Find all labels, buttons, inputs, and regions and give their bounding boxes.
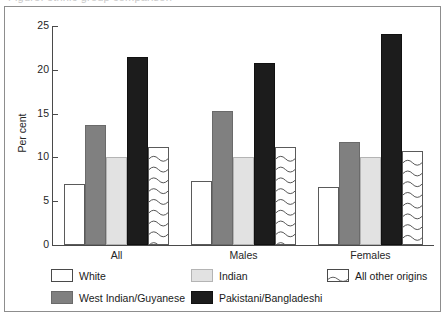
y-tick: 0 — [53, 245, 58, 246]
legend-item: White — [51, 269, 106, 282]
bar — [402, 151, 423, 245]
x-axis-group-label: Females — [307, 249, 434, 261]
bar — [85, 125, 106, 245]
y-tick-label: 0 — [43, 238, 49, 250]
bar — [212, 111, 233, 245]
bar — [275, 147, 296, 245]
y-axis-title: Per cent — [16, 98, 28, 168]
legend-label: West Indian/Guyanese — [79, 292, 185, 304]
legend-item: West Indian/Guyanese — [51, 291, 185, 304]
y-tick-label: 10 — [37, 150, 49, 162]
legend-label: Pakistani/Bangladeshi — [219, 292, 322, 304]
bar — [381, 34, 402, 245]
x-axis-group-label: All — [53, 249, 180, 261]
bar — [106, 157, 127, 245]
y-tick-label: 15 — [37, 107, 49, 119]
legend-swatch-white — [51, 269, 73, 282]
bar — [127, 57, 148, 245]
x-axis-line — [52, 245, 434, 246]
y-tick-label: 20 — [37, 63, 49, 75]
legend-item: All other origins — [327, 269, 427, 282]
legend-item: Indian — [191, 269, 248, 282]
y-tick: 15 — [53, 114, 58, 115]
y-tick-label: 25 — [37, 19, 49, 31]
bar — [191, 181, 212, 245]
y-axis-line — [52, 26, 53, 246]
legend-label: White — [79, 270, 106, 282]
legend-swatch-dgray — [51, 291, 73, 304]
y-tick-mark — [53, 70, 58, 71]
y-tick: 5 — [53, 201, 58, 202]
cut-off-heading-text: Figure: ethnic group comparison — [8, 0, 172, 3]
legend-label: Indian — [219, 270, 248, 282]
y-tick-mark — [53, 157, 58, 158]
bar — [148, 147, 169, 245]
plot-region: 0510152025 Per cent AllMalesFemales — [5, 7, 442, 261]
figure-frame: 0510152025 Per cent AllMalesFemales Whit… — [4, 6, 441, 312]
legend-label: All other origins — [355, 270, 427, 282]
y-tick-mark — [53, 201, 58, 202]
chart-legend: WhiteIndianAll other originsWest Indian/… — [5, 265, 442, 311]
bar — [339, 142, 360, 245]
y-tick-mark — [53, 26, 58, 27]
bar — [318, 187, 339, 245]
y-tick-mark — [53, 114, 58, 115]
y-tick-label: 5 — [43, 194, 49, 206]
y-tick: 25 — [53, 26, 58, 27]
bar — [360, 157, 381, 245]
y-tick: 20 — [53, 70, 58, 71]
legend-swatch-wavy — [327, 269, 349, 282]
bar — [254, 63, 275, 245]
bar — [233, 157, 254, 245]
legend-swatch-lgray — [191, 269, 213, 282]
y-tick: 10 — [53, 157, 58, 158]
y-tick-mark — [53, 245, 58, 246]
x-axis-group-label: Males — [180, 249, 307, 261]
bar — [64, 184, 85, 245]
legend-item: Pakistani/Bangladeshi — [191, 291, 322, 304]
legend-swatch-black — [191, 291, 213, 304]
